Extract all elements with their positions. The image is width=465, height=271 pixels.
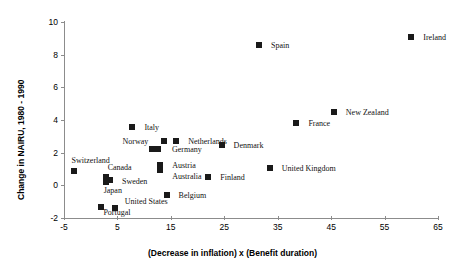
- y-axis-title: Change in NAIRU, 1980 - 1990: [16, 80, 26, 200]
- data-point-label: Belgium: [179, 191, 207, 200]
- data-point-label: Australia: [172, 172, 201, 181]
- x-tick: [438, 216, 439, 220]
- x-axis-title: (Decrease in inflation) x (Benefit durat…: [0, 248, 465, 258]
- data-point-label: Denmark: [234, 141, 264, 150]
- data-point-marker: [155, 146, 161, 152]
- x-tick-label: 55: [365, 222, 405, 232]
- x-axis-line: [64, 218, 439, 219]
- y-tick: [61, 22, 65, 23]
- y-tick: [61, 120, 65, 121]
- data-point-marker: [103, 179, 109, 185]
- x-tick-label: 45: [311, 222, 351, 232]
- y-tick: [61, 55, 65, 56]
- x-tick-label: 65: [418, 222, 458, 232]
- x-tick: [171, 216, 172, 220]
- data-point-marker: [205, 174, 211, 180]
- data-point-marker: [173, 138, 179, 144]
- data-point-marker: [267, 165, 273, 171]
- data-point-marker: [219, 142, 225, 148]
- data-point-label: Sweden: [122, 177, 147, 186]
- x-tick: [224, 216, 225, 220]
- data-point-label: France: [308, 119, 330, 128]
- y-tick: [61, 218, 65, 219]
- data-point-marker: [149, 146, 155, 152]
- data-point-marker: [129, 124, 135, 130]
- x-tick: [385, 216, 386, 220]
- x-tick-label: 15: [151, 222, 191, 232]
- data-point-marker: [331, 109, 337, 115]
- data-point-label: Italy: [144, 123, 159, 132]
- y-tick-label: 8: [36, 50, 58, 60]
- y-tick: [61, 87, 65, 88]
- x-tick-label: 35: [258, 222, 298, 232]
- data-point-label: United States: [125, 197, 168, 206]
- y-tick-label: 10: [36, 17, 58, 27]
- y-tick: [61, 153, 65, 154]
- data-point-marker: [161, 138, 167, 144]
- data-point-label: Spain: [271, 41, 289, 50]
- y-tick-label: 6: [36, 82, 58, 92]
- data-point-label: Portugal: [103, 208, 130, 217]
- x-tick: [331, 216, 332, 220]
- data-point-label: Germany: [172, 145, 202, 154]
- data-point-label: Switzerland: [72, 156, 110, 165]
- data-point-marker: [256, 42, 262, 48]
- data-point-label: United Kingdom: [282, 164, 336, 173]
- data-point-label: Ireland: [423, 33, 446, 42]
- x-tick-label: -5: [44, 222, 84, 232]
- y-tick-label: -2: [36, 213, 58, 223]
- scatter-chart: -55152535455565 -20246810 IrelandSpainNe…: [0, 0, 465, 271]
- y-tick-label: 4: [36, 115, 58, 125]
- data-point-label: Japan: [104, 186, 122, 195]
- data-point-marker: [293, 120, 299, 126]
- data-point-label: Finland: [220, 173, 244, 182]
- x-tick: [278, 216, 279, 220]
- data-point-label: Canada: [108, 163, 132, 172]
- y-tick: [61, 185, 65, 186]
- y-tick-label: 0: [36, 180, 58, 190]
- data-point-label: Austria: [172, 161, 196, 170]
- data-point-label: Norway: [122, 137, 148, 146]
- data-point-marker: [71, 168, 77, 174]
- x-tick-label: 25: [204, 222, 244, 232]
- y-tick-label: 2: [36, 148, 58, 158]
- data-point-marker: [408, 34, 414, 40]
- data-point-marker: [157, 167, 163, 173]
- data-point-label: New Zealand: [346, 108, 389, 117]
- x-tick-label: 5: [97, 222, 137, 232]
